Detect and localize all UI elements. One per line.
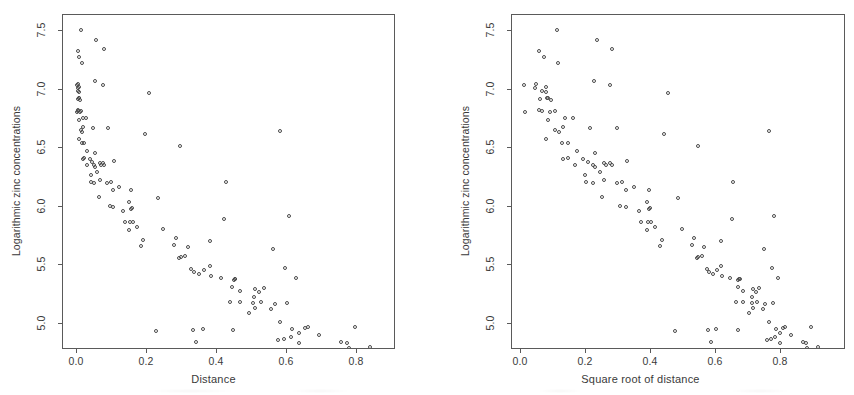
data-point bbox=[639, 220, 643, 224]
data-point bbox=[608, 83, 612, 87]
data-point bbox=[593, 165, 597, 169]
data-point bbox=[76, 49, 80, 53]
y-tick-mark bbox=[507, 30, 511, 31]
data-point bbox=[135, 225, 139, 229]
data-point bbox=[549, 98, 553, 102]
data-point bbox=[345, 341, 349, 345]
data-point bbox=[77, 137, 81, 141]
data-point bbox=[719, 239, 723, 243]
data-point bbox=[111, 188, 115, 192]
data-point bbox=[537, 49, 541, 53]
data-point bbox=[194, 340, 198, 344]
data-point bbox=[93, 79, 97, 83]
data-point bbox=[77, 90, 81, 94]
data-point bbox=[645, 200, 649, 204]
x-tick-label: 0.4 bbox=[208, 355, 223, 367]
x-tick-label: 0.2 bbox=[577, 355, 592, 367]
data-point bbox=[208, 239, 212, 243]
data-point bbox=[575, 149, 579, 153]
data-point bbox=[658, 244, 662, 248]
data-point bbox=[127, 200, 131, 204]
data-point bbox=[179, 255, 183, 259]
data-point bbox=[98, 178, 102, 182]
data-point bbox=[219, 276, 223, 280]
data-point bbox=[816, 345, 820, 348]
data-point bbox=[290, 327, 294, 331]
data-point bbox=[130, 206, 134, 210]
data-point bbox=[730, 217, 734, 221]
data-point bbox=[542, 55, 546, 59]
data-point bbox=[222, 217, 226, 221]
data-point bbox=[750, 301, 754, 305]
x-axis-title-right: Square root of distance bbox=[427, 373, 854, 385]
x-tick-mark bbox=[715, 349, 716, 353]
data-point bbox=[771, 301, 775, 305]
plot-area-left bbox=[62, 14, 395, 349]
data-point bbox=[632, 185, 636, 189]
data-point bbox=[625, 159, 629, 163]
data-point bbox=[269, 307, 273, 311]
data-point bbox=[598, 170, 602, 174]
data-point bbox=[741, 300, 745, 304]
data-point bbox=[78, 98, 82, 102]
data-point bbox=[143, 132, 147, 136]
data-point bbox=[736, 285, 740, 289]
y-tick-mark bbox=[58, 206, 62, 207]
y-tick-label: 5.0 bbox=[484, 310, 496, 336]
data-point bbox=[705, 267, 709, 271]
data-point bbox=[108, 204, 112, 208]
x-tick-label: 0.4 bbox=[642, 355, 657, 367]
data-point bbox=[560, 141, 564, 145]
data-point bbox=[186, 245, 190, 249]
data-point bbox=[804, 341, 808, 345]
data-point bbox=[728, 276, 732, 280]
data-point bbox=[147, 91, 151, 95]
data-point bbox=[85, 163, 89, 167]
y-tick-mark bbox=[507, 147, 511, 148]
x-tick-label: 0.0 bbox=[512, 355, 527, 367]
data-point bbox=[80, 61, 84, 65]
y-tick-mark bbox=[58, 264, 62, 265]
y-tick-mark bbox=[58, 323, 62, 324]
data-point bbox=[566, 156, 570, 160]
data-point bbox=[734, 300, 738, 304]
data-point bbox=[637, 209, 641, 213]
data-point bbox=[750, 295, 754, 299]
y-tick-mark bbox=[507, 89, 511, 90]
data-point bbox=[353, 325, 357, 329]
data-point bbox=[93, 165, 97, 169]
data-point bbox=[615, 181, 619, 185]
data-point bbox=[715, 268, 719, 272]
y-tick-mark bbox=[507, 264, 511, 265]
data-point bbox=[102, 47, 106, 51]
data-point bbox=[77, 118, 81, 122]
y-tick-mark bbox=[58, 89, 62, 90]
data-point bbox=[696, 144, 700, 148]
data-point bbox=[540, 109, 544, 113]
data-point bbox=[82, 141, 86, 145]
data-point bbox=[584, 180, 588, 184]
y-tick-label: 7.5 bbox=[35, 17, 47, 43]
data-point bbox=[178, 144, 182, 148]
data-point bbox=[767, 320, 771, 324]
y-tick-label: 7.0 bbox=[484, 76, 496, 102]
x-tick-mark bbox=[780, 349, 781, 353]
data-points-left bbox=[63, 15, 394, 348]
scatter-panel-sqrt-distance: 0.00.20.40.60.85.05.56.06.57.07.5 Square… bbox=[427, 0, 854, 395]
data-point bbox=[347, 346, 351, 348]
data-point bbox=[602, 178, 606, 182]
data-point bbox=[770, 266, 774, 270]
data-point bbox=[368, 345, 372, 348]
data-point bbox=[91, 126, 95, 130]
data-point bbox=[702, 245, 706, 249]
data-point bbox=[273, 302, 277, 306]
data-point bbox=[192, 270, 196, 274]
data-point bbox=[762, 247, 766, 251]
data-point bbox=[317, 333, 321, 337]
data-point bbox=[690, 243, 694, 247]
y-tick-label: 6.0 bbox=[484, 193, 496, 219]
data-point bbox=[79, 28, 83, 32]
data-point bbox=[778, 331, 782, 335]
data-point bbox=[112, 159, 116, 163]
x-tick-label: 0.0 bbox=[68, 355, 83, 367]
